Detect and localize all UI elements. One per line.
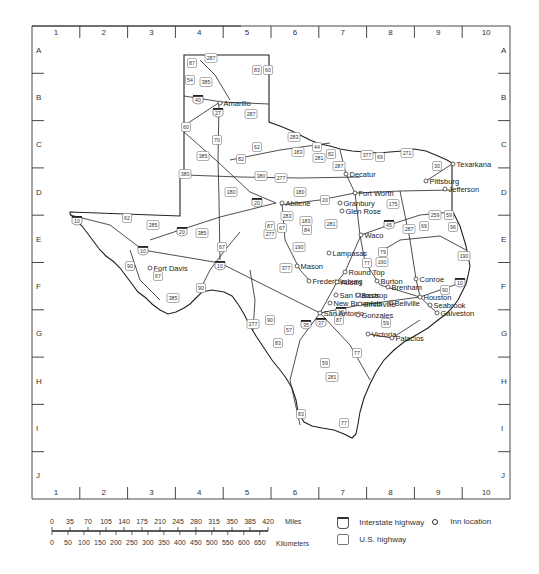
us-highway-shield-77: 77	[340, 419, 349, 428]
inn-location-texarkana: Texarkana	[451, 160, 492, 169]
us-highway-shield-175: 175	[387, 200, 399, 209]
us-highway-shield-259: 259	[429, 211, 441, 220]
interstate-shield-27: 27	[213, 108, 223, 117]
svg-text:20: 20	[179, 229, 185, 235]
inn-location-amarillo: Amarillo	[218, 99, 251, 108]
us-highway-shield-281: 281	[325, 220, 337, 229]
svg-text:377: 377	[363, 152, 372, 158]
svg-text:82: 82	[328, 151, 334, 157]
grid-col-label: 8	[388, 488, 393, 497]
svg-text:Fort Worth: Fort Worth	[359, 189, 394, 198]
svg-text:77: 77	[341, 420, 347, 426]
us-highway-shield-83: 83	[297, 410, 306, 419]
us-highway-shield-60: 60	[264, 66, 273, 75]
svg-text:59: 59	[383, 320, 389, 326]
legend-us: U.S. highway	[337, 534, 406, 545]
us-highway-shield-287: 287	[245, 110, 257, 119]
inn-location-fort-davis: Fort Davis	[148, 264, 188, 273]
grid-col-label: 4	[197, 28, 202, 37]
svg-text:45: 45	[386, 222, 392, 228]
us-highway-shield-271: 271	[401, 149, 413, 158]
grid-row-label: H	[501, 377, 507, 386]
svg-text:20: 20	[254, 200, 260, 206]
inn-location-palacios: Palacios	[390, 334, 424, 343]
svg-text:Conroe: Conroe	[420, 275, 445, 284]
svg-text:30: 30	[434, 163, 440, 169]
svg-text:37: 37	[318, 320, 324, 326]
us-highway-shield-277: 277	[264, 230, 276, 239]
grid-row-label: F	[36, 282, 41, 291]
svg-text:83: 83	[275, 340, 281, 346]
grid-row-label: B	[501, 93, 506, 102]
svg-text:35: 35	[303, 322, 309, 328]
scale-km-tick: 200	[110, 539, 122, 546]
us-highway-shield-87: 87	[266, 222, 275, 231]
svg-text:84: 84	[304, 227, 310, 233]
inn-location-waco: Waco	[359, 231, 383, 240]
us-highway-shield-59: 59	[445, 211, 454, 220]
us-highway-shield-96: 96	[449, 223, 458, 232]
svg-text:283: 283	[283, 213, 292, 219]
grid-col-label: 3	[149, 28, 154, 37]
svg-text:Bellville: Bellville	[395, 299, 420, 308]
svg-text:44: 44	[314, 144, 320, 150]
svg-text:Galveston: Galveston	[441, 309, 475, 318]
us-highway-shield-283: 283	[288, 133, 300, 142]
inn-location-gonzales: Gonzales	[356, 311, 393, 320]
grid-row-label: E	[36, 235, 41, 244]
us-highway-shield-281: 281	[313, 154, 325, 163]
svg-text:57: 57	[286, 327, 292, 333]
grid-col-label: 2	[101, 28, 106, 37]
svg-text:Palacios: Palacios	[396, 334, 425, 343]
legend-interstate-label: Interstate highway	[359, 518, 424, 527]
us-highway-shield-385: 385	[200, 78, 212, 87]
svg-text:183: 183	[302, 218, 311, 224]
grid-row-label: J	[501, 471, 505, 480]
us-highway-shield-67: 67	[278, 224, 287, 233]
grid-row-label: J	[36, 471, 40, 480]
scale-miles-tick: 385	[244, 518, 256, 525]
us-highway-shield-59: 59	[321, 359, 330, 368]
us-highway-shield-70: 70	[213, 136, 222, 145]
scale-km-tick: 100	[78, 539, 90, 546]
grid-col-label: 5	[245, 488, 250, 497]
svg-text:190: 190	[378, 259, 387, 265]
interstate-shield-20: 20	[177, 227, 187, 236]
svg-text:Austin: Austin	[341, 278, 362, 287]
grid-row-label: A	[501, 46, 507, 55]
svg-text:Gonzales: Gonzales	[362, 311, 394, 320]
scale-miles-tick: 280	[190, 518, 202, 525]
inn-marker-icon	[432, 519, 438, 525]
us-highway-shield-385: 385	[196, 229, 208, 238]
svg-text:90: 90	[198, 285, 204, 291]
scale-km-tick: 300	[142, 539, 154, 546]
svg-text:190: 190	[460, 253, 469, 259]
us-highway-shield-285: 285	[147, 221, 159, 230]
scale-miles-tick: 420	[262, 518, 274, 525]
scale-miles-tick: 210	[154, 518, 166, 525]
us-highway-shield-190: 190	[458, 252, 470, 261]
interstate-shield-10: 10	[138, 246, 148, 255]
inn-locations: AmarilloTexarkanaDecaturPittsburgJeffers…	[148, 99, 492, 343]
inn-location-brenham: Brenham	[386, 283, 422, 292]
grid-col-label: 7	[340, 488, 345, 497]
grid-col-label: 10	[482, 28, 491, 37]
us-highway-shield-281: 281	[326, 373, 338, 382]
us-highway-shield-62: 62	[253, 143, 262, 152]
us-highway-shield-377: 377	[361, 151, 373, 160]
us-highway-shield-287: 287	[403, 225, 415, 234]
scale-miles-tick: 245	[172, 518, 184, 525]
us-highway-shield-79: 79	[379, 248, 388, 257]
grid-col-label: 1	[54, 488, 59, 497]
scale-miles-tick: 315	[208, 518, 220, 525]
us-highway-shield-183: 183	[300, 217, 312, 226]
svg-text:Jefferson: Jefferson	[449, 185, 480, 194]
svg-text:69: 69	[421, 223, 427, 229]
us-highway-shield-83: 83	[274, 339, 283, 348]
grid-col-label: 7	[340, 28, 345, 37]
scale-km-label: Kilometers	[276, 540, 310, 547]
grid-row-label: D	[501, 188, 507, 197]
svg-text:67: 67	[219, 244, 225, 250]
grid-col-label: 5	[245, 28, 250, 37]
svg-text:62: 62	[254, 144, 260, 150]
